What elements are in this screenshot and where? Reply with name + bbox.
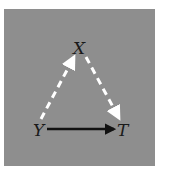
node-x-label: X — [71, 38, 86, 58]
node-t-label: T — [117, 120, 130, 140]
edge-y-to-x — [41, 57, 74, 119]
edge-x-to-t — [86, 57, 119, 118]
causal-diagram: X Y T — [0, 0, 173, 185]
node-y-label: Y — [33, 120, 46, 140]
